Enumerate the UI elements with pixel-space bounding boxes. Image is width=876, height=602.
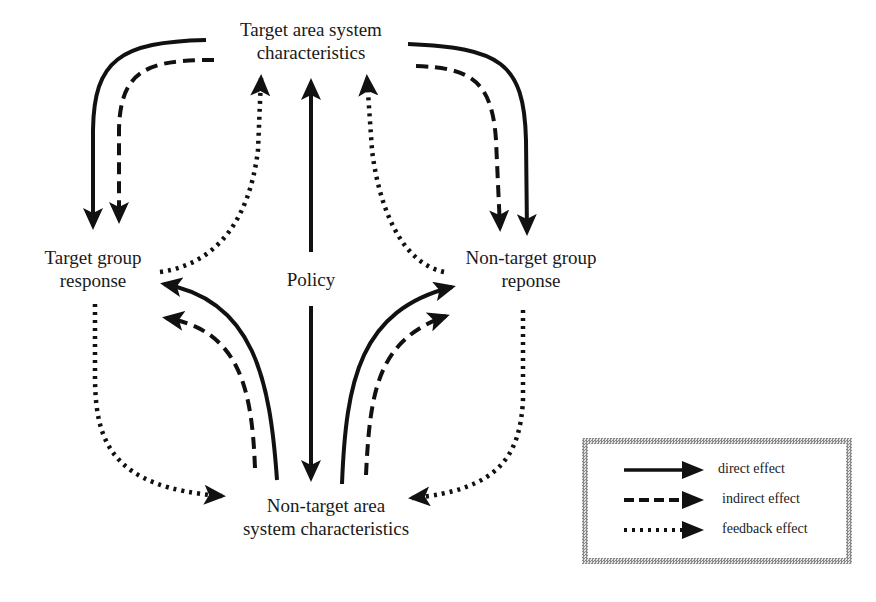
- arrow-target-area-to-nontarget-group-indirect: [416, 66, 500, 228]
- node-target-group-line1: Target group: [18, 246, 168, 269]
- node-nontarget-area-line1: Non-target area: [214, 494, 438, 517]
- legend: direct effect indirect effect feedback e…: [582, 438, 852, 564]
- node-target-group-line2: response: [18, 269, 168, 292]
- legend-label-feedback: feedback effect: [722, 520, 808, 538]
- arrow-nontarget-area-to-nontarget-group-indirect: [366, 316, 446, 475]
- legend-item-direct: direct effect: [588, 458, 846, 482]
- node-target-area-line2: characteristics: [200, 41, 422, 64]
- node-policy-label: Policy: [270, 268, 352, 291]
- legend-label-indirect: indirect effect: [722, 490, 800, 508]
- legend-item-feedback: feedback effect: [588, 518, 846, 542]
- arrow-target-area-to-nontarget-group-direct: [408, 44, 527, 232]
- dashed-arrow-icon: [624, 490, 704, 510]
- legend-item-indirect: indirect effect: [588, 488, 846, 512]
- arrow-nontarget-area-to-target-group-direct: [164, 284, 277, 480]
- arrow-feedback-nontarget-group-to-nontarget-area: [412, 310, 523, 498]
- dotted-arrow-icon: [624, 520, 704, 540]
- solid-arrow-icon: [624, 460, 704, 480]
- arrow-nontarget-area-to-target-group-indirect: [166, 318, 255, 468]
- arrow-feedback-target-group-to-target-area: [160, 78, 261, 272]
- node-nontarget-area-line2: system characteristics: [214, 517, 438, 540]
- node-nontarget-group-line1: Non-target group: [442, 246, 620, 269]
- node-nontarget-area: Non-target area system characteristics: [214, 494, 438, 540]
- legend-label-direct: direct effect: [718, 460, 785, 478]
- arrow-nontarget-area-to-nontarget-group-direct: [342, 287, 452, 484]
- arrow-feedback-target-group-to-nontarget-area: [95, 304, 222, 496]
- node-target-group: Target group response: [18, 246, 168, 292]
- node-nontarget-group: Non-target group reponse: [442, 246, 620, 292]
- arrow-target-area-to-target-group-indirect: [119, 60, 214, 220]
- node-nontarget-group-line2: reponse: [442, 269, 620, 292]
- arrow-feedback-nontarget-group-to-target-area: [367, 78, 444, 272]
- node-target-area-line1: Target area system: [200, 18, 422, 41]
- node-policy: Policy: [270, 268, 352, 291]
- node-target-area: Target area system characteristics: [200, 18, 422, 64]
